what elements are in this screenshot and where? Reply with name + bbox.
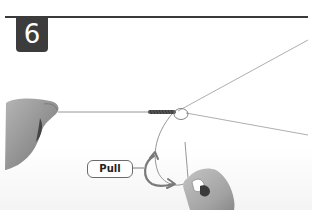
knot-wrap [148,110,176,114]
left-hand [5,99,59,170]
pull-arrow-icon [145,152,175,188]
pull-callout-label: Pull [87,160,133,178]
main-line-lower [186,113,308,135]
main-line-upper [178,40,308,111]
right-hand [183,168,234,210]
knot-illustration [0,0,312,210]
knot-loop [174,109,188,120]
tag-end-upright [185,142,188,178]
tag-end-loop [155,114,192,185]
instruction-panel: 6 [0,0,312,210]
